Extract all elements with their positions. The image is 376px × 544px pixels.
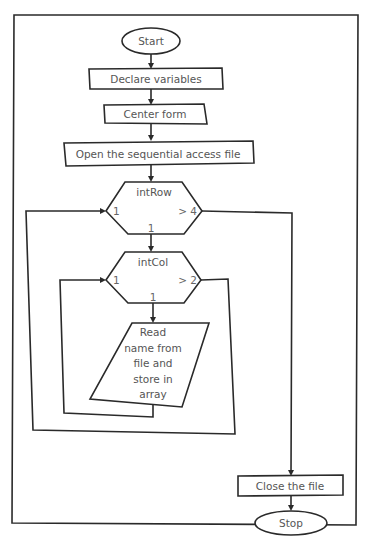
- introw-label: intRow: [136, 186, 172, 198]
- arrowhead-icon: [100, 208, 106, 214]
- read-line-4: store in: [133, 373, 172, 385]
- intcol-limit: > 2: [178, 274, 197, 286]
- read-line-5: array: [139, 388, 167, 400]
- intcol-label: intCol: [138, 256, 168, 268]
- open-file-label: Open the sequential access file: [76, 148, 241, 160]
- arrowhead-icon: [100, 277, 106, 283]
- arrowhead-icon: [150, 317, 156, 323]
- stop-label: Stop: [279, 517, 303, 529]
- intcol-start-value: 1: [113, 274, 120, 286]
- declare-variables-label: Declare variables: [110, 73, 201, 85]
- close-file-label: Close the file: [256, 480, 325, 492]
- introw-step: 1: [148, 222, 155, 234]
- introw-limit: > 4: [178, 205, 197, 217]
- arrowhead-icon: [148, 246, 154, 252]
- flowchart-diagram: Start Declare variables Center form Open…: [0, 0, 376, 544]
- introw-start-value: 1: [113, 205, 120, 217]
- start-label: Start: [138, 35, 164, 47]
- intcol-step: 1: [150, 291, 157, 303]
- arrowhead-icon: [148, 135, 154, 141]
- read-line-2: name from: [124, 342, 182, 354]
- read-line-1: Read: [140, 326, 166, 338]
- center-form-label: Center form: [123, 108, 186, 120]
- read-line-3: file and: [133, 357, 172, 369]
- arrowhead-icon: [288, 505, 294, 511]
- arrowhead-icon: [148, 176, 154, 182]
- exit-introw-to-close: [202, 211, 292, 474]
